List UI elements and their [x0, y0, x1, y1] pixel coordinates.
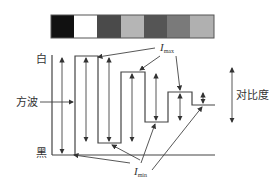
- square-wave-label: 方波: [16, 97, 38, 108]
- imin-pointer-4: [152, 107, 202, 170]
- swatch-2: [97, 15, 121, 38]
- swatch-4: [144, 15, 167, 38]
- white-label: 白: [36, 54, 47, 65]
- imax-pointer-2: [140, 56, 160, 70]
- contrast-label: 对比度: [236, 90, 269, 101]
- swatch-6: [190, 15, 214, 38]
- swatch-5: [167, 15, 190, 38]
- imin-pointer-3: [141, 124, 155, 163]
- imax-pointer-3: [176, 56, 180, 90]
- imin-pointer-2: [112, 145, 140, 160]
- imin-pointer-1: [74, 155, 130, 163]
- gray-level-bar: [51, 15, 214, 38]
- square-wave: [75, 56, 215, 155]
- imax-label: Imax: [160, 42, 174, 54]
- imax-pointer-1: [98, 48, 155, 57]
- swatch-0: [51, 15, 74, 38]
- black-label: 黑: [36, 148, 47, 159]
- imin-label: Imin: [134, 166, 147, 178]
- swatch-3: [121, 15, 144, 38]
- swatch-1: [74, 15, 97, 38]
